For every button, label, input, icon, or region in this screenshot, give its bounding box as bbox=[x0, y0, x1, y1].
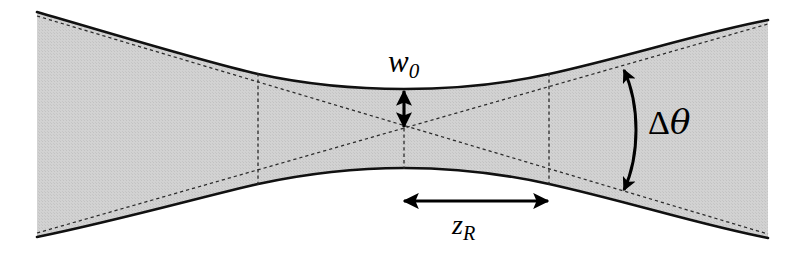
beam-waist-radius-label: w0 bbox=[388, 46, 419, 82]
theta-symbol: θ bbox=[670, 102, 690, 142]
divergence-angle-label: Δθ bbox=[648, 105, 690, 140]
delta-symbol: Δ bbox=[648, 104, 670, 141]
waist-subscript: 0 bbox=[409, 59, 420, 83]
waist-symbol: w bbox=[388, 44, 409, 79]
rayleigh-subscript: R bbox=[463, 222, 475, 244]
rayleigh-symbol: z bbox=[452, 209, 463, 240]
figure-canvas: w0 zR Δθ bbox=[0, 0, 797, 254]
rayleigh-range-label: zR bbox=[452, 211, 475, 243]
